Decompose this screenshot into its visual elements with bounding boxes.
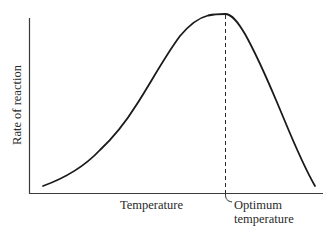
optimum-annotation-line2: temperature (234, 212, 294, 226)
enzyme-temperature-chart: Temperature Rate of reaction Optimum tem… (0, 0, 335, 237)
x-axis-label: Temperature (120, 198, 183, 213)
optimum-annotation: Optimum temperature (234, 198, 294, 226)
annotation-leader (226, 194, 233, 202)
rate-curve (43, 14, 315, 186)
y-axis-label: Rate of reaction (10, 65, 25, 145)
optimum-annotation-line1: Optimum (234, 198, 294, 212)
